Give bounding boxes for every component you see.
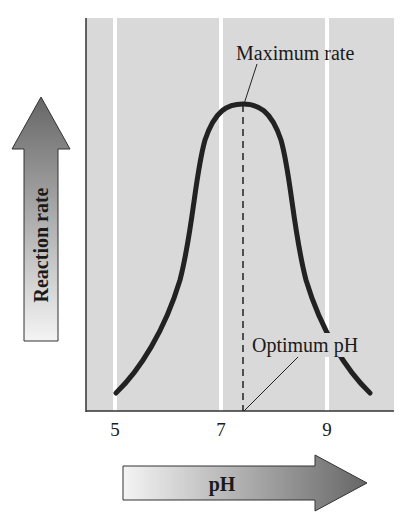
max-rate-label: Maximum rate bbox=[236, 42, 354, 64]
y-axis-label: Reaction rate bbox=[30, 187, 52, 302]
tick-label-7: 7 bbox=[216, 419, 226, 440]
reaction-rate-arrow-icon: Reaction rate bbox=[12, 97, 70, 341]
x-axis-label: pH bbox=[209, 473, 236, 496]
ph-arrow-icon: pH bbox=[123, 455, 367, 511]
tick-label-9: 9 bbox=[322, 419, 332, 440]
tick-label-5: 5 bbox=[110, 419, 120, 440]
enzyme-ph-diagram: Maximum rate Optimum pH 5 7 9 Reaction r… bbox=[0, 0, 408, 527]
optimum-ph-label: Optimum pH bbox=[252, 334, 358, 357]
